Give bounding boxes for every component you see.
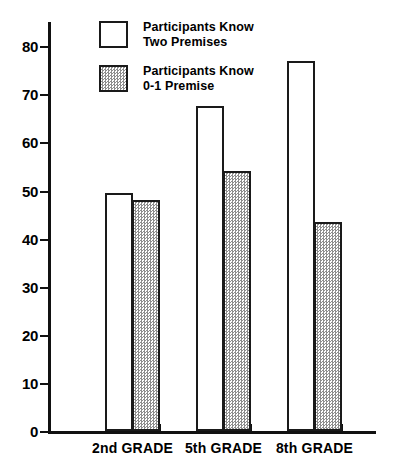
y-axis-line <box>48 22 51 434</box>
y-tick-mark <box>40 383 49 385</box>
bar-two-premises <box>287 61 315 431</box>
bar-two-premises <box>105 193 133 431</box>
x-axis-label-8th-grade: 8th GRADE <box>255 441 375 455</box>
y-tick-label-text: 10 <box>4 376 38 391</box>
y-tick-label: 0 <box>0 424 38 439</box>
y-tick-mark <box>40 335 49 337</box>
y-tick-label: 80 <box>0 39 38 54</box>
y-tick-label-text: 30 <box>4 280 38 295</box>
y-tick-mark <box>40 94 49 96</box>
legend-item-two-premises: Participants Know Two Premises <box>99 20 329 55</box>
legend-swatch-hatched-icon <box>99 65 128 92</box>
y-tick-label-text: 60 <box>4 135 38 150</box>
bar-chart: 01020304050607080 2nd GRADE5th GRADE8th … <box>0 0 400 469</box>
bar-two-premises <box>196 106 224 431</box>
y-tick-label: 50 <box>0 184 38 199</box>
bar-zero-one-premise <box>314 222 342 431</box>
y-tick-label: 40 <box>0 232 38 247</box>
y-tick-mark <box>40 431 49 433</box>
legend-label-two-premises: Participants Know Two Premises <box>143 20 254 50</box>
legend-label-zero-one-premise: Participants Know 0-1 Premise <box>143 64 254 94</box>
y-tick-label: 70 <box>0 87 38 102</box>
legend-label-line1: Participants Know <box>143 64 254 78</box>
y-tick-mark <box>40 142 49 144</box>
bar-zero-one-premise <box>223 171 251 431</box>
y-tick-mark <box>40 191 49 193</box>
y-tick-label: 20 <box>0 328 38 343</box>
x-axis-line <box>48 431 376 434</box>
y-tick-mark <box>40 287 49 289</box>
y-tick-label: 10 <box>0 376 38 391</box>
y-tick-label: 60 <box>0 135 38 150</box>
y-tick-mark <box>40 46 49 48</box>
legend-label-line2: 0-1 Premise <box>143 79 214 93</box>
y-tick-label-text: 40 <box>4 232 38 247</box>
legend-label-line2: Two Premises <box>143 35 227 49</box>
y-tick-mark <box>40 239 49 241</box>
y-tick-label-text: 70 <box>4 87 38 102</box>
bar-zero-one-premise <box>132 200 160 431</box>
y-tick-label: 30 <box>0 280 38 295</box>
legend-swatch-open-icon <box>99 21 128 48</box>
y-tick-label-text: 0 <box>4 424 38 439</box>
y-tick-label-text: 80 <box>4 39 38 54</box>
y-tick-label-text: 50 <box>4 184 38 199</box>
y-tick-label-text: 20 <box>4 328 38 343</box>
legend-label-line1: Participants Know <box>143 20 254 34</box>
